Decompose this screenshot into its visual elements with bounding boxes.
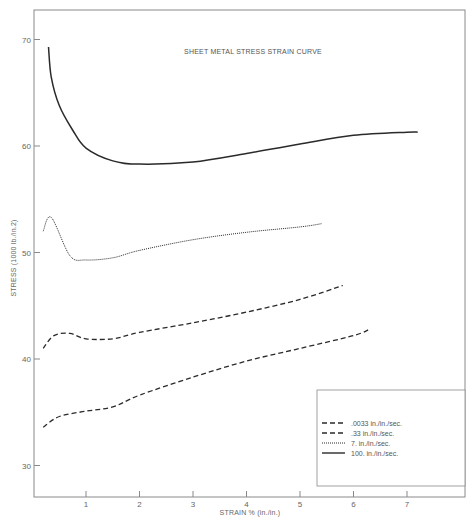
x-tick-label: 3 <box>191 500 196 509</box>
y-tick-label: 40 <box>22 355 31 364</box>
series-line-1 <box>43 286 343 349</box>
legend-label: .0033 in./in./sec. <box>351 420 402 427</box>
legend-box <box>317 390 465 486</box>
x-tick-label: 7 <box>405 500 410 509</box>
x-axis: 1234567 <box>84 491 410 509</box>
x-tick-label: 4 <box>244 500 249 509</box>
y-axis-title: STRESS (1000 lb./in.2) <box>10 219 18 296</box>
y-tick-label: 50 <box>22 249 31 258</box>
series-line-2 <box>43 217 321 261</box>
legend-label: 7. in./in./sec. <box>351 440 390 447</box>
y-tick-label: 60 <box>22 142 31 151</box>
stress-strain-chart: SHEET METAL STRESS STRAIN CURVE 30405060… <box>0 0 472 522</box>
legend-label: .33 in./in./sec. <box>351 430 394 437</box>
series-group <box>43 47 418 427</box>
y-tick-label: 70 <box>22 36 31 45</box>
x-tick-label: 5 <box>298 500 303 509</box>
series-line-3 <box>49 47 418 164</box>
legend: .0033 in./in./sec. .33 in./in./sec. 7. i… <box>317 390 465 486</box>
chart-title: SHEET METAL STRESS STRAIN CURVE <box>184 48 322 55</box>
x-tick-label: 1 <box>84 500 89 509</box>
legend-label: 100. in./in./sec. <box>351 450 398 457</box>
x-tick-label: 6 <box>351 500 356 509</box>
y-axis: 3040506070 <box>22 36 40 471</box>
x-tick-label: 2 <box>137 500 142 509</box>
y-tick-label: 30 <box>22 462 31 471</box>
x-axis-title: STRAIN % (in./in.) <box>220 509 281 517</box>
